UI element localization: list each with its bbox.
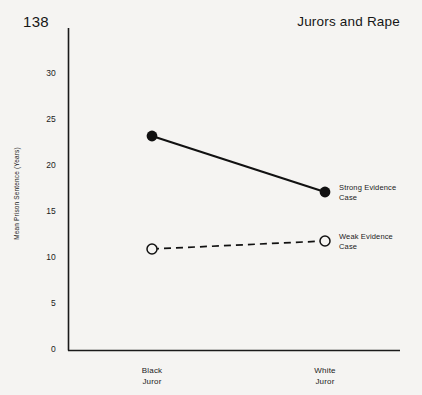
data-point-weak-black-juror: [147, 244, 157, 254]
legend-weak-evidence-line2: Case: [339, 242, 357, 251]
page-canvas: 138 Jurors and Rape Mean Prison Sentence…: [0, 0, 422, 395]
series-line-weak-evidence: [152, 241, 325, 249]
x-tick-white-juror-line1: White: [314, 366, 335, 375]
data-point-strong-white-juror: [320, 187, 331, 198]
legend-weak-evidence-line1: Weak Evidence: [339, 232, 393, 241]
legend-strong-evidence-line2: Case: [339, 193, 357, 202]
x-tick-black-juror-line2: Juror: [142, 377, 161, 386]
data-point-strong-black-juror: [147, 131, 158, 142]
x-tick-label-white-juror: White Juror: [280, 366, 370, 387]
legend-strong-evidence: Strong Evidence Case: [339, 183, 422, 202]
x-tick-label-black-juror: Black Juror: [107, 366, 197, 387]
legend-weak-evidence: Weak Evidence Case: [339, 232, 422, 251]
legend-strong-evidence-line1: Strong Evidence: [339, 183, 396, 192]
x-tick-black-juror-line1: Black: [142, 366, 163, 375]
figure-chart: Mean Prison Sentence (Years) 30 25 20 15…: [0, 0, 422, 395]
data-point-weak-white-juror: [320, 236, 330, 246]
series-line-strong-evidence: [152, 136, 325, 192]
x-tick-white-juror-line2: Juror: [315, 377, 334, 386]
